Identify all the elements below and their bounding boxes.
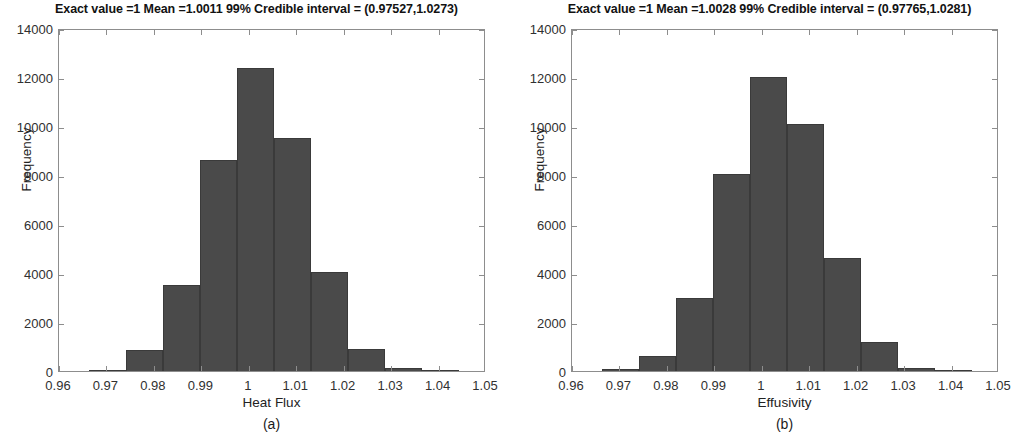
x-axis-tick (439, 30, 440, 35)
y-axis-tick (479, 128, 484, 129)
x-axis-tick (762, 366, 763, 371)
y-axis-tick (59, 324, 64, 325)
y-axis-tick-label: 2000 (514, 317, 566, 330)
x-axis-tick (59, 30, 60, 35)
histogram-bar (713, 174, 750, 371)
x-axis-tick (439, 366, 440, 371)
y-axis-tick (572, 79, 577, 80)
histogram-bar (639, 356, 676, 371)
y-axis-tick-label: 2000 (1, 317, 53, 330)
x-axis-tick (249, 30, 250, 35)
panel-b-x-axis-label: Effusivity (571, 395, 998, 410)
panel-b-plot-area (571, 29, 998, 372)
x-axis-tick (201, 366, 202, 371)
histogram-bar (163, 285, 200, 371)
histogram-figure: Exact value =1 Mean =1.0011 99% Credible… (0, 0, 1026, 441)
panel-b-y-axis-label: Frequency (532, 90, 547, 230)
histogram-bar (787, 124, 824, 371)
panel-b-caption: (b) (571, 416, 998, 432)
x-axis-tick (154, 30, 155, 35)
x-axis-tick (714, 30, 715, 35)
x-axis-tick (857, 366, 858, 371)
y-axis-tick (479, 79, 484, 80)
y-axis-tick (479, 30, 484, 31)
y-axis-tick-label: 6000 (1, 219, 53, 232)
x-axis-tick (344, 30, 345, 35)
y-axis-tick-label: 14000 (514, 23, 566, 36)
histogram-bar (200, 160, 237, 371)
histogram-bar (422, 370, 459, 371)
x-axis-tick (154, 366, 155, 371)
x-axis-tick-label: 1.05 (455, 379, 515, 392)
panel-a-caption: (a) (58, 416, 485, 432)
histogram-bar (237, 68, 274, 371)
y-axis-tick-label: 14000 (1, 23, 53, 36)
x-axis-tick (619, 30, 620, 35)
x-axis-tick (391, 366, 392, 371)
x-axis-tick (201, 30, 202, 35)
x-axis-tick (809, 30, 810, 35)
y-axis-tick (59, 79, 64, 80)
histogram-bar (274, 138, 311, 371)
y-axis-tick-label: 12000 (514, 72, 566, 85)
panel-b-title: Exact value =1 Mean =1.0028 99% Credible… (513, 2, 1026, 16)
histogram-bar (311, 272, 348, 371)
y-axis-tick (992, 226, 997, 227)
y-axis-tick (59, 128, 64, 129)
y-axis-tick (59, 275, 64, 276)
y-axis-tick (479, 275, 484, 276)
y-axis-tick (992, 177, 997, 178)
y-axis-tick-label: 10000 (1, 121, 53, 134)
y-axis-tick-label: 4000 (1, 268, 53, 281)
x-axis-tick (667, 366, 668, 371)
y-axis-tick-label: 8000 (1, 170, 53, 183)
y-axis-tick (992, 128, 997, 129)
x-axis-tick (106, 366, 107, 371)
x-axis-tick (904, 366, 905, 371)
panel-b-bars (572, 30, 997, 371)
x-axis-tick (249, 366, 250, 371)
y-axis-tick-label: 12000 (1, 72, 53, 85)
panel-a-bars (59, 30, 484, 371)
y-axis-tick (572, 226, 577, 227)
y-axis-tick (59, 177, 64, 178)
x-axis-tick (619, 366, 620, 371)
x-axis-tick (904, 30, 905, 35)
x-axis-tick (344, 366, 345, 371)
y-axis-tick (992, 30, 997, 31)
histogram-bar (861, 342, 898, 371)
histogram-bar (348, 349, 385, 371)
histogram-bar (824, 258, 861, 371)
x-axis-tick (572, 30, 573, 35)
y-axis-tick (479, 177, 484, 178)
histogram-bar (935, 370, 972, 371)
y-axis-tick (59, 226, 64, 227)
x-axis-tick (952, 366, 953, 371)
x-axis-tick (296, 366, 297, 371)
y-axis-tick-label: 10000 (514, 121, 566, 134)
y-axis-tick (572, 177, 577, 178)
y-axis-tick-label: 6000 (514, 219, 566, 232)
x-axis-tick (59, 366, 60, 371)
x-axis-tick (762, 30, 763, 35)
panel-a-title: Exact value =1 Mean =1.0011 99% Credible… (0, 2, 513, 16)
y-axis-tick (992, 275, 997, 276)
panel-a-plot-area (58, 29, 485, 372)
x-axis-tick (296, 30, 297, 35)
y-axis-tick (479, 324, 484, 325)
x-axis-tick (391, 30, 392, 35)
x-axis-tick (952, 30, 953, 35)
x-axis-tick (106, 30, 107, 35)
x-axis-tick (572, 366, 573, 371)
x-axis-tick (857, 30, 858, 35)
y-axis-tick (992, 324, 997, 325)
panel-effusivity: Exact value =1 Mean =1.0028 99% Credible… (513, 0, 1026, 441)
panel-a-x-axis-label: Heat Flux (58, 395, 485, 410)
x-axis-tick-label: 1.05 (968, 379, 1026, 392)
x-axis-tick (809, 366, 810, 371)
y-axis-tick (992, 79, 997, 80)
histogram-bar (126, 350, 163, 371)
x-axis-tick (714, 366, 715, 371)
y-axis-tick (572, 128, 577, 129)
y-axis-tick (479, 226, 484, 227)
